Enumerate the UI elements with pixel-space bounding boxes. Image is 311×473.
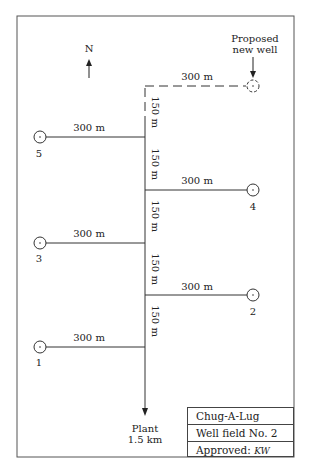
approved-signature: KW <box>254 446 270 456</box>
approved-label: Approved: <box>196 444 251 456</box>
trunk-seg-4: 150 m <box>150 253 161 285</box>
trunk-seg-1: 150 m <box>150 96 161 128</box>
well-field-diagram: N Proposed new well 300 m 150 m 150 m 15… <box>0 0 311 473</box>
proposed-well-arrow-icon <box>250 57 256 78</box>
well-5-label: 5 <box>36 148 42 159</box>
north-label: N <box>85 43 94 54</box>
plant-label: Plant <box>132 423 158 434</box>
title-block: Chug-A-Lug Well field No. 2 Approved: KW <box>187 407 294 457</box>
well-2-distance: 300 m <box>181 281 213 292</box>
proposed-well-label-2: new well <box>233 44 278 55</box>
map-border <box>17 16 294 457</box>
well-3-distance: 300 m <box>73 228 105 239</box>
well-4-label: 4 <box>250 201 256 212</box>
well-1-label: 1 <box>36 357 42 368</box>
well-4-distance: 300 m <box>181 175 213 186</box>
title-project: Chug-A-Lug <box>188 408 293 425</box>
well-5-distance: 300 m <box>73 122 105 133</box>
well-1-distance: 300 m <box>73 332 105 343</box>
well-3-label: 3 <box>36 253 42 264</box>
plant-arrow-icon <box>142 408 148 416</box>
proposed-well-label-1: Proposed <box>231 33 279 44</box>
proposed-distance: 300 m <box>181 71 213 82</box>
trunk-seg-2: 150 m <box>150 148 161 180</box>
trunk-seg-5: 150 m <box>150 305 161 337</box>
title-field: Well field No. 2 <box>188 425 293 442</box>
north-arrow-icon <box>86 59 92 78</box>
trunk-seg-3: 150 m <box>150 200 161 232</box>
well-2-label: 2 <box>250 306 256 317</box>
plant-distance: 1.5 km <box>128 434 163 445</box>
title-approval: Approved: KW <box>188 442 293 458</box>
